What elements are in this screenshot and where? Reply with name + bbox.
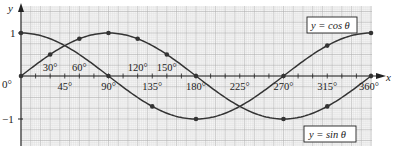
x-axis-label: x — [385, 71, 391, 83]
data-point — [369, 74, 374, 79]
x-tick-label: 135° — [142, 81, 162, 92]
x-tick-label: 270° — [274, 81, 294, 92]
data-point — [369, 31, 374, 36]
data-point — [106, 31, 111, 36]
y-axis-label: y — [7, 2, 13, 14]
data-point — [281, 117, 286, 122]
data-point — [19, 31, 24, 36]
x-tick-label: 60° — [72, 62, 87, 73]
origin-label: 0° — [2, 78, 12, 90]
x-tick-label: 315° — [317, 81, 337, 92]
data-point — [106, 74, 111, 79]
x-tick-label: 120° — [128, 62, 148, 73]
data-point — [194, 74, 199, 79]
y-tick-minus-1: −1 — [2, 113, 14, 125]
x-tick-label: 180° — [186, 81, 206, 92]
data-point — [281, 74, 286, 79]
sin-cos-chart: 30°60°120°150°45°90°135°180°225°270°315°… — [0, 0, 397, 152]
data-point — [19, 74, 24, 79]
y-tick-1: 1 — [10, 27, 16, 39]
cos-legend-label: y = cos θ — [310, 20, 350, 31]
data-point — [325, 43, 330, 48]
x-tick-label: 360° — [359, 81, 379, 92]
sin-legend-label: y = sin θ — [308, 129, 346, 140]
x-tick-label: 45° — [57, 81, 72, 92]
data-point — [194, 117, 199, 122]
data-point — [325, 104, 330, 109]
data-point — [48, 52, 53, 57]
data-point — [165, 52, 170, 57]
cos-legend-box: y = cos θ — [307, 17, 357, 33]
data-point — [150, 104, 155, 109]
x-tick-label: 90° — [101, 81, 116, 92]
x-tick-label: 150° — [157, 62, 177, 73]
x-tick-label: 225° — [230, 81, 250, 92]
data-point — [135, 36, 140, 41]
x-tick-label: 30° — [43, 62, 58, 73]
data-point — [77, 36, 82, 41]
sin-legend-box: y = sin θ — [304, 126, 356, 142]
